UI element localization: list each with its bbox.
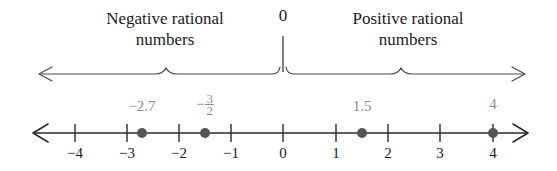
tick-label-minus-3: −3 [107, 145, 147, 162]
number-line-axis [33, 124, 528, 142]
point-label-1-5: 1.5 [332, 98, 392, 115]
point-minus-3-over-2 [200, 128, 210, 138]
number-line-figure: Negative rational numbers Positive ratio… [0, 0, 557, 171]
positive-brace-path [286, 67, 524, 74]
tick-label-4: 4 [473, 145, 513, 162]
tick-label-3: 3 [420, 145, 460, 162]
tick-label-minus-1: −1 [211, 145, 251, 162]
point-4 [488, 128, 498, 138]
point-minus-2-7 [137, 128, 147, 138]
tick-label-2: 2 [368, 145, 408, 162]
fraction-denominator: 2 [205, 105, 214, 116]
fraction-minus-3-over-2: − 3 2 [196, 93, 214, 116]
fraction-minus-sign: − [196, 96, 204, 113]
tick-label-1: 1 [316, 145, 356, 162]
positive-region-brace [286, 67, 525, 81]
tick-label-minus-2: −2 [159, 145, 199, 162]
fraction-body: 3 2 [205, 93, 214, 116]
point-label-minus-2-7: −2.7 [112, 98, 172, 115]
tick-label-minus-4: −4 [55, 145, 95, 162]
negative-brace-path [40, 67, 280, 74]
negative-region-brace [39, 67, 280, 81]
tick-label-0: 0 [263, 145, 303, 162]
point-1-5 [357, 128, 367, 138]
point-label-minus-3-over-2: − 3 2 [176, 93, 234, 116]
point-label-4: 4 [473, 96, 513, 113]
